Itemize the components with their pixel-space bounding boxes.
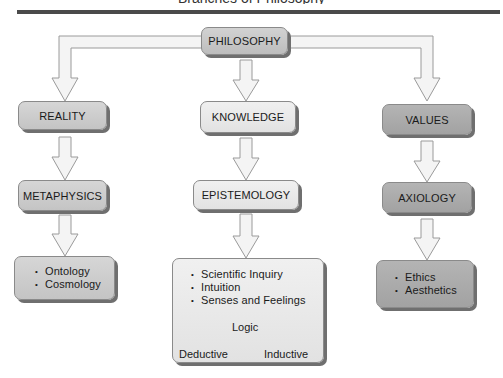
arrow-epistemology-to-items [233, 214, 259, 258]
axiology-label: AXIOLOGY [398, 192, 456, 204]
metaphysics-node: METAPHYSICS [18, 180, 107, 211]
arrow-philosophy-to-reality [52, 36, 205, 101]
philosophy-label: PHILOSOPHY [208, 35, 281, 47]
arrow-philosophy-to-knowledge [233, 60, 259, 101]
knowledge-label: KNOWLEDGE [212, 111, 284, 123]
list-item-ontology: Ontology [35, 265, 114, 278]
axiology-node: AXIOLOGY [382, 182, 472, 213]
list-item-cosmology: Cosmology [35, 278, 114, 291]
reality-label: REALITY [39, 110, 86, 122]
metaphysics-items-box: Ontology Cosmology [14, 256, 115, 300]
arrow-axiology-to-items [414, 219, 440, 260]
list-item-scientific-inquiry: Scientific Inquiry [191, 268, 323, 281]
knowledge-node: KNOWLEDGE [200, 101, 296, 133]
epistemology-node: EPISTEMOLOGY [193, 180, 299, 210]
arrow-knowledge-to-epistemology [233, 138, 259, 180]
logic-label: Logic [232, 321, 258, 333]
list-item-senses-and-feelings: Senses and Feelings [191, 294, 323, 307]
metaphysics-label: METAPHYSICS [23, 190, 102, 202]
axiology-items-box: Ethics Aesthetics [376, 260, 474, 308]
inductive-label: Inductive [264, 348, 308, 360]
reality-node: REALITY [18, 101, 107, 130]
list-item-ethics: Ethics [395, 271, 473, 284]
epistemology-label: EPISTEMOLOGY [202, 189, 291, 201]
arrow-metaphysics-to-items [52, 215, 78, 256]
list-item-aesthetics: Aesthetics [395, 284, 473, 297]
list-item-intuition: Intuition [191, 281, 323, 294]
philosophy-node: PHILOSOPHY [201, 27, 288, 55]
values-node: VALUES [382, 104, 472, 135]
deductive-label: Deductive [179, 348, 228, 360]
arrow-philosophy-to-values [290, 36, 440, 101]
arrow-values-to-axiology [414, 141, 440, 182]
arrow-reality-to-metaphysics [52, 137, 78, 180]
values-label: VALUES [405, 114, 448, 126]
